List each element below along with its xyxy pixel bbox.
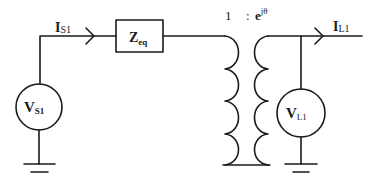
transformer-primary-coil [225, 36, 239, 165]
source-voltage-label: VS1 [24, 99, 45, 116]
source-ground-icon [24, 164, 55, 172]
transformer-ratio-separator: : [246, 8, 250, 23]
source-top-wire [40, 36, 116, 84]
impedance-label: Zeq [129, 30, 147, 47]
impedance-box [116, 20, 163, 52]
circuit-svg: IS1 Zeq 1 : ejθ IL1 VS1 VL1 [0, 0, 377, 183]
transformer-secondary-coil [255, 36, 269, 165]
transformer-ratio-right: ejθ [255, 6, 268, 23]
load-voltage-label: VL1 [286, 105, 307, 122]
transformer-ratio-left: 1 [225, 8, 232, 23]
load-current-label: IL1 [333, 19, 350, 34]
circuit-diagram: IS1 Zeq 1 : ejθ IL1 VS1 VL1 [0, 0, 377, 183]
load-ground-icon [285, 164, 317, 172]
source-current-label: IS1 [55, 20, 71, 35]
